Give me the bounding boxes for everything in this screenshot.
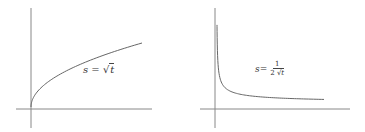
denominator-coefficient: 2: [270, 69, 274, 77]
fraction-denominator: 2 √t: [270, 69, 284, 78]
inverse-sqrt-formula-label: s = 1 2 √t: [255, 60, 284, 78]
sqrt-formula-label: s = √t: [83, 64, 114, 75]
formula-equals: =: [260, 64, 268, 74]
sqrt-curve: [31, 43, 142, 107]
fraction: 1 2 √t: [270, 60, 284, 78]
charts-canvas: [0, 0, 365, 132]
formula-variable: t: [109, 63, 114, 75]
formula-equals: =: [88, 64, 103, 75]
formula-variable: t: [281, 68, 284, 77]
